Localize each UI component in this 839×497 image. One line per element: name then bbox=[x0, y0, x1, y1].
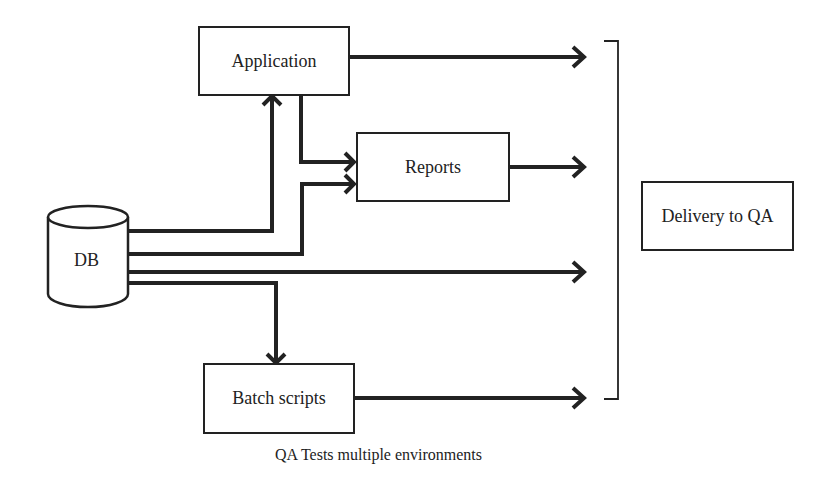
delivery-label: Delivery to QA bbox=[662, 206, 774, 227]
bracket bbox=[604, 41, 618, 399]
delivery-node: Delivery to QA bbox=[641, 181, 794, 251]
edge-db-reports bbox=[128, 184, 352, 254]
application-label: Application bbox=[232, 51, 317, 72]
edge-application-reports bbox=[301, 96, 352, 162]
diagram-caption: QA Tests multiple environments bbox=[275, 446, 482, 464]
edge-db-batch bbox=[128, 283, 276, 362]
batch-scripts-node: Batch scripts bbox=[203, 363, 355, 434]
reports-node: Reports bbox=[356, 132, 510, 202]
batch-scripts-label: Batch scripts bbox=[232, 388, 325, 409]
application-node: Application bbox=[198, 26, 350, 96]
reports-label: Reports bbox=[405, 157, 461, 178]
edge-db-application bbox=[128, 98, 272, 231]
diagram-canvas: Application Reports DB Batch scripts Del… bbox=[0, 0, 839, 497]
db-label: DB bbox=[74, 250, 99, 271]
